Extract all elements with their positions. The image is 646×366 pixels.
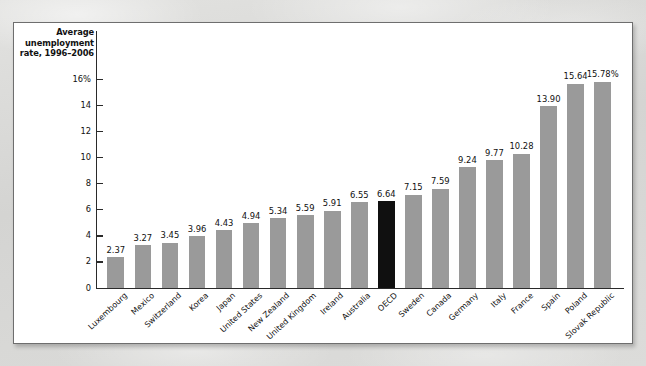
y-axis-tick-label-6: 6 xyxy=(51,204,91,214)
bar-slot[interactable]: 7.15 xyxy=(405,31,422,288)
bar-slot[interactable]: 3.96 xyxy=(189,31,206,288)
x-axis-label-text: Luxembourg xyxy=(86,291,129,332)
bar-value-label: 7.59 xyxy=(418,176,463,186)
bar-slot[interactable]: 5.91 xyxy=(324,31,341,288)
bar-slot[interactable]: 15.78% xyxy=(594,31,611,288)
bar-slot[interactable]: 9.77 xyxy=(486,31,503,288)
bar-slot[interactable]: 2.37 xyxy=(107,31,124,288)
bar-slot[interactable]: 5.59 xyxy=(297,31,314,288)
bar-germany[interactable] xyxy=(459,167,476,288)
bar-luxembourg[interactable] xyxy=(107,257,124,288)
bar-spain[interactable] xyxy=(540,106,557,288)
y-axis-title-line-1: Average xyxy=(16,27,94,38)
x-axis-label-text: France xyxy=(509,291,535,316)
y-axis-title-line-2: unemployment xyxy=(16,38,94,49)
bar-slovak-republic[interactable] xyxy=(594,82,611,288)
y-axis-tick-label-10: 10 xyxy=(51,152,91,162)
bar-slot[interactable]: 10.28 xyxy=(513,31,530,288)
y-axis-title-line-3: rate, 1996–2006 xyxy=(16,48,94,59)
bar-slot[interactable]: 6.64 xyxy=(378,31,395,288)
bar-sweden[interactable] xyxy=(405,195,422,288)
x-axis-label-text: Slovak Republic xyxy=(563,291,615,341)
bar-slot[interactable]: 5.34 xyxy=(270,31,287,288)
y-axis-tick-label-8: 8 xyxy=(51,178,91,188)
x-axis-label-text: Japan xyxy=(215,291,237,313)
bar-poland[interactable] xyxy=(567,84,584,288)
y-axis-tick-label-16: 16% xyxy=(51,74,91,84)
x-axis-label-text: Italy xyxy=(489,291,508,309)
bar-value-label: 13.90 xyxy=(526,94,571,104)
bar-slot[interactable]: 4.43 xyxy=(216,31,233,288)
y-axis-tick-label-14: 14 xyxy=(51,100,91,110)
y-axis-tick-label-12: 12 xyxy=(51,126,91,136)
x-axis-label-text: Spain xyxy=(539,291,561,313)
x-axis-label-text: Korea xyxy=(187,291,210,313)
bar-slot[interactable]: 3.45 xyxy=(162,31,179,288)
x-axis-label-text: Poland xyxy=(563,291,589,316)
y-axis-title: Average unemployment rate, 1996–2006 xyxy=(16,27,94,59)
bar-slot[interactable]: 13.90 xyxy=(540,31,557,288)
bar-slot[interactable]: 9.24 xyxy=(459,31,476,288)
y-axis-tick-label-4: 4 xyxy=(51,230,91,240)
bar-slot[interactable]: 3.27 xyxy=(135,31,152,288)
bar-value-label: 10.28 xyxy=(499,141,544,151)
figure-panel: Average unemployment rate, 1996–2006 024… xyxy=(13,22,633,344)
y-axis-tick-label-2: 2 xyxy=(51,256,91,266)
y-axis-tick-label-0: 0 xyxy=(51,283,91,293)
bar-value-label: 2.37 xyxy=(93,245,138,255)
bar-value-label: 15.78% xyxy=(580,69,625,79)
bar-slot[interactable]: 4.94 xyxy=(243,31,260,288)
x-axis-label-text: United Kingdom xyxy=(265,291,318,341)
x-axis-label-text: OECD xyxy=(376,291,399,313)
bar-france[interactable] xyxy=(513,154,530,288)
